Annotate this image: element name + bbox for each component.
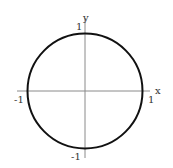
y-tick-label-1: 1 [76, 21, 82, 32]
x-axis-label: x [155, 85, 161, 96]
x-tick-label-neg1: -1 [14, 94, 24, 105]
x-tick-label-1: 1 [148, 94, 154, 105]
y-tick-label-neg1: -1 [71, 151, 81, 162]
unit-circle-plot: x y -1 1 1 -1 [0, 0, 173, 168]
y-axis-label: y [82, 12, 89, 23]
